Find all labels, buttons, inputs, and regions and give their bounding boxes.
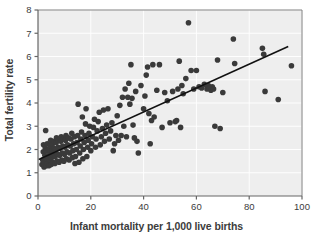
data-point — [121, 123, 127, 129]
x-tick-label: 40 — [138, 201, 149, 212]
data-point — [75, 101, 81, 107]
data-point — [43, 128, 49, 134]
plot-canvas: 012345678020406080100 — [0, 0, 313, 240]
data-point — [176, 58, 182, 64]
data-point — [188, 68, 194, 74]
data-point — [93, 144, 99, 150]
y-axis-title-text: Total fertility rate — [3, 59, 15, 141]
data-point — [220, 90, 226, 96]
data-point — [93, 136, 99, 142]
y-tick-label: 0 — [26, 190, 31, 201]
data-point — [130, 122, 136, 128]
y-tick-label: 3 — [26, 121, 31, 132]
data-point — [142, 93, 148, 99]
data-point — [212, 123, 218, 129]
data-point — [108, 128, 114, 134]
data-point — [124, 134, 130, 140]
x-tick-label: 20 — [86, 201, 97, 212]
data-point — [127, 101, 133, 107]
data-point — [150, 62, 156, 68]
data-point — [232, 61, 238, 67]
data-point — [83, 106, 89, 112]
data-point — [147, 141, 153, 147]
data-point — [114, 113, 120, 119]
x-tick-label: 100 — [294, 201, 310, 212]
data-point — [167, 120, 173, 126]
y-tick-label: 2 — [26, 144, 31, 155]
data-point — [179, 83, 185, 89]
data-point — [133, 89, 139, 95]
data-point — [134, 139, 140, 145]
y-axis-title: Total fertility rate — [0, 0, 18, 200]
data-point — [162, 90, 168, 96]
y-tick-label: 6 — [26, 51, 31, 62]
data-point — [262, 89, 268, 95]
data-point — [126, 80, 132, 86]
data-point — [105, 106, 111, 112]
data-point — [122, 86, 128, 92]
x-tick-label: 0 — [35, 201, 40, 212]
data-point — [95, 119, 101, 125]
x-axis-title: Infant mortality per 1,000 live births — [0, 220, 313, 232]
x-tick-label: 60 — [191, 201, 202, 212]
data-point — [102, 139, 108, 145]
data-point — [143, 72, 149, 78]
y-axis-ticks: 012345678 — [26, 4, 38, 201]
data-point — [186, 20, 192, 26]
y-tick-label: 1 — [26, 167, 31, 178]
data-point — [194, 68, 200, 74]
data-point — [106, 136, 112, 142]
data-point — [129, 96, 135, 102]
data-point — [151, 114, 157, 120]
data-point — [231, 36, 237, 42]
data-point — [145, 64, 151, 70]
data-point — [138, 83, 144, 89]
data-point — [88, 148, 94, 154]
data-point — [117, 103, 123, 109]
data-point — [120, 94, 126, 100]
data-point — [174, 118, 180, 124]
data-point — [118, 133, 124, 139]
data-point — [211, 86, 217, 92]
data-point — [136, 150, 142, 156]
data-point — [183, 76, 189, 82]
data-point — [178, 125, 184, 131]
data-point — [159, 125, 165, 131]
data-point — [157, 62, 163, 68]
data-point — [170, 89, 176, 95]
data-point — [289, 63, 295, 69]
data-point — [110, 148, 116, 154]
x-axis-ticks: 020406080100 — [35, 196, 310, 212]
y-tick-label: 7 — [26, 28, 31, 39]
data-point — [154, 87, 160, 93]
x-tick-label: 80 — [244, 201, 255, 212]
data-point — [84, 154, 90, 160]
data-point — [215, 57, 221, 63]
data-point — [260, 46, 266, 52]
y-tick-label: 5 — [26, 74, 31, 85]
y-tick-label: 4 — [26, 97, 31, 108]
data-point — [146, 111, 152, 117]
data-point — [103, 130, 109, 136]
data-point — [275, 97, 281, 103]
scatter-chart: 012345678020406080100 Total fertility ra… — [0, 0, 313, 240]
data-point — [128, 62, 134, 68]
y-tick-label: 8 — [26, 4, 31, 15]
data-point — [80, 114, 86, 120]
data-point — [217, 126, 223, 132]
